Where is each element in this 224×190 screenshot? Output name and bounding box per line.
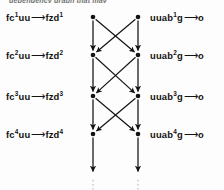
graph-node-l4 xyxy=(91,132,96,137)
graph-node-l1 xyxy=(91,15,96,20)
graph-node-r3 xyxy=(136,94,141,99)
graph-node-r1 xyxy=(136,15,141,20)
graph-edge-diagonal xyxy=(96,19,135,52)
graph-node-l3 xyxy=(91,94,96,99)
dependency-graph xyxy=(0,0,224,190)
graph-edge-diagonal xyxy=(96,98,135,131)
graph-node-r4 xyxy=(136,132,141,137)
graph-continuation-dotted xyxy=(93,180,138,189)
graph-edge-diagonal xyxy=(96,57,135,93)
graph-edge-diagonal xyxy=(97,98,136,131)
graph-node-l2 xyxy=(91,53,96,58)
graph-edge-diagonal xyxy=(96,57,135,93)
graph-edges xyxy=(93,19,138,171)
graph-node-r2 xyxy=(136,53,141,58)
figure-page: dependency graph that may fc1uu⟶fzd1 fc2… xyxy=(0,0,224,190)
graph-edge-diagonal xyxy=(97,19,136,52)
